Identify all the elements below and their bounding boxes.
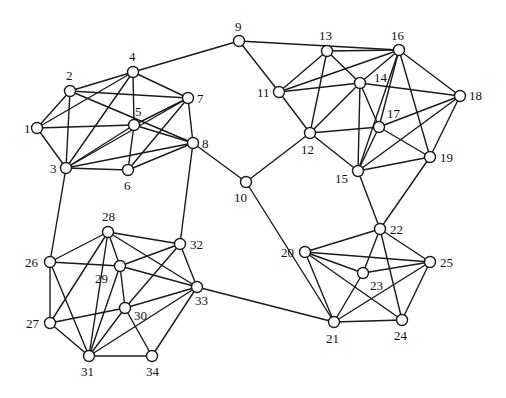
node-17 <box>374 122 385 133</box>
edge-1-2 <box>37 91 70 128</box>
edge-12-15 <box>310 133 358 171</box>
edge-1-4 <box>37 72 133 128</box>
node-8 <box>188 138 199 149</box>
edge-10-12 <box>246 133 310 182</box>
node-label-12: 12 <box>301 142 314 157</box>
node-19 <box>425 152 436 163</box>
node-label-3: 3 <box>50 161 57 176</box>
edge-3-6 <box>66 168 128 170</box>
node-26 <box>45 257 56 268</box>
edge-3-4 <box>66 72 133 168</box>
node-label-18: 18 <box>469 88 482 103</box>
edge-3-26 <box>50 168 66 262</box>
edge-21-33 <box>197 287 334 322</box>
node-label-16: 16 <box>391 28 405 43</box>
edge-21-24 <box>334 320 402 322</box>
node-30 <box>120 303 131 314</box>
edge-15-19 <box>358 157 430 171</box>
edge-2-4 <box>70 72 133 91</box>
node-label-17: 17 <box>387 106 401 121</box>
node-15 <box>353 166 364 177</box>
node-27 <box>45 318 56 329</box>
node-label-8: 8 <box>202 136 209 151</box>
edge-20-22 <box>305 229 380 252</box>
edge-30-33 <box>125 287 197 308</box>
node-label-20: 20 <box>281 245 294 260</box>
node-label-22: 22 <box>390 222 403 237</box>
node-22 <box>375 224 386 235</box>
node-25 <box>425 257 436 268</box>
edge-7-8 <box>188 98 193 143</box>
edge-26-29 <box>50 262 120 266</box>
edge-4-7 <box>133 72 188 98</box>
edge-22-23 <box>363 229 380 273</box>
edge-27-30 <box>50 308 125 323</box>
node-12 <box>305 128 316 139</box>
edge-8-10 <box>193 143 246 182</box>
node-9 <box>234 36 245 47</box>
edge-2-3 <box>66 91 70 168</box>
edge-27-31 <box>50 323 89 356</box>
edge-4-9 <box>133 41 239 72</box>
node-label-5: 5 <box>135 104 142 119</box>
node-label-15: 15 <box>335 171 348 186</box>
node-label-14: 14 <box>374 70 388 85</box>
node-10 <box>241 177 252 188</box>
node-label-11: 11 <box>257 85 270 100</box>
node-5 <box>129 120 140 131</box>
node-label-33: 33 <box>195 293 208 308</box>
label-layer: 1234567891011121314151617181920212223242… <box>24 19 482 379</box>
edge-26-28 <box>50 232 108 262</box>
node-label-4: 4 <box>129 49 136 64</box>
edge-11-12 <box>279 92 310 133</box>
node-label-6: 6 <box>124 178 131 193</box>
node-label-10: 10 <box>234 190 247 205</box>
edge-6-8 <box>128 143 193 170</box>
node-1 <box>32 123 43 134</box>
node-11 <box>274 87 285 98</box>
node-label-27: 27 <box>26 316 40 331</box>
node-3 <box>61 163 72 174</box>
edge-13-14 <box>327 51 360 83</box>
edge-12-14 <box>310 83 360 133</box>
edge-14-15 <box>358 83 360 171</box>
node-label-19: 19 <box>440 150 453 165</box>
node-4 <box>128 67 139 78</box>
node-21 <box>329 317 340 328</box>
node-18 <box>455 91 466 102</box>
node-24 <box>397 315 408 326</box>
node-29 <box>115 261 126 272</box>
node-16 <box>394 45 405 56</box>
edge-15-17 <box>358 127 379 171</box>
node-label-31: 31 <box>81 364 94 379</box>
node-label-25: 25 <box>440 255 453 270</box>
node-label-29: 29 <box>95 271 108 286</box>
node-label-1: 1 <box>24 121 31 136</box>
node-label-26: 26 <box>25 255 39 270</box>
node-33 <box>192 282 203 293</box>
node-31 <box>84 351 95 362</box>
node-34 <box>147 351 158 362</box>
edge-15-22 <box>358 171 380 229</box>
node-13 <box>322 46 333 57</box>
node-label-2: 2 <box>66 68 73 83</box>
node-2 <box>65 86 76 97</box>
edge-4-5 <box>133 72 134 125</box>
node-20 <box>300 247 311 258</box>
edge-19-22 <box>380 157 430 229</box>
node-28 <box>103 227 114 238</box>
edge-29-30 <box>120 266 125 308</box>
edge-14-17 <box>360 83 379 127</box>
edge-2-7 <box>70 91 188 98</box>
edge-28-31 <box>89 232 108 356</box>
edge-13-16 <box>327 50 399 51</box>
edge-8-32 <box>180 143 193 244</box>
node-label-28: 28 <box>102 209 115 224</box>
node-label-34: 34 <box>146 364 160 379</box>
edge-33-34 <box>152 287 197 356</box>
node-label-30: 30 <box>134 308 147 323</box>
edge-26-31 <box>50 262 89 356</box>
node-label-24: 24 <box>394 328 408 343</box>
node-7 <box>183 93 194 104</box>
edge-12-17 <box>310 127 379 133</box>
